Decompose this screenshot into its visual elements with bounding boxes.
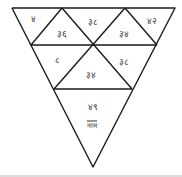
- triangle-lines: [0, 0, 182, 177]
- cell-label-r1c1: ४: [31, 15, 37, 24]
- cell-label-r1c5: ४२: [147, 17, 158, 26]
- cell-sublabel-r3c1: नाम: [87, 121, 97, 130]
- cell-label-r2c1: ८: [55, 56, 61, 65]
- cell-label-r2c2: ३४: [86, 71, 97, 80]
- cell-label-r1c2: ३६: [57, 30, 68, 39]
- triangle-diagram: ४ ३६ ३८ ३४ ४२ ८ ३४ ३८ ४९ नाम: [0, 0, 182, 177]
- cell-label-r1c4: ३४: [119, 30, 130, 39]
- bottom-divider: [0, 175, 182, 177]
- cell-label-r3c1: ४९: [88, 103, 99, 112]
- cell-label-r1c3: ३८: [88, 18, 99, 27]
- cell-label-r2c3: ३८: [119, 58, 130, 67]
